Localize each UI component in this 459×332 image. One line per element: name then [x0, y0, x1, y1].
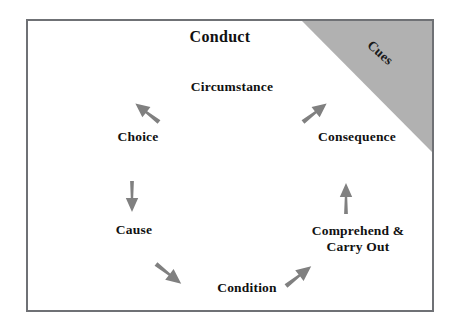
cues-label: Cues [364, 37, 396, 69]
node-comprehend-line2: Carry Out [327, 239, 390, 254]
arrow-circumstance-to-choice [131, 98, 163, 127]
node-consequence: Consequence [318, 129, 396, 145]
node-cause: Cause [116, 222, 152, 238]
arrow-choice-to-cause [126, 181, 138, 212]
node-comprehend-line1: Comprehend & [312, 223, 405, 238]
cycle-arrows [28, 21, 434, 312]
cues-corner-wedge [28, 21, 434, 312]
arrow-comprehend-to-consequence [340, 183, 352, 214]
diagram-title: Conduct [190, 28, 251, 46]
node-choice: Choice [118, 129, 159, 145]
node-condition: Condition [217, 280, 277, 296]
arrow-condition-to-comprehend [282, 261, 316, 291]
arrow-cause-to-condition [152, 259, 186, 289]
node-comprehend-carry-out: Comprehend & Carry Out [312, 223, 405, 255]
node-circumstance: Circumstance [191, 79, 273, 95]
diagram-canvas: Cues [0, 0, 459, 332]
diagram-frame: Cues [26, 19, 434, 312]
arrow-consequence-to-circumstance [299, 98, 331, 127]
